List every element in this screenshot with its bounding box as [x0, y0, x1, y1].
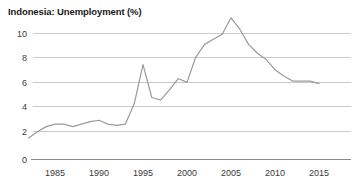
y-tick-label-4: 4 — [22, 102, 27, 112]
line-chart-svg: 10 8 6 4 2 0 1985 1990 1995 2000 2005 20… — [0, 0, 361, 196]
x-tick-label-1995: 1995 — [133, 168, 153, 178]
x-tick-label-1985: 1985 — [45, 168, 65, 178]
y-tick-label-0: 0 — [22, 155, 27, 165]
chart-card: Indonesia: Unemployment (%) 10 8 6 4 2 0… — [0, 0, 361, 196]
y-tick-label-8: 8 — [22, 53, 27, 63]
x-tick-labels: 1985 1990 1995 2000 2005 2010 2015 — [45, 168, 329, 178]
unemployment-line — [29, 18, 319, 138]
x-tick-label-2010: 2010 — [265, 168, 285, 178]
plot-area: 10 8 6 4 2 0 1985 1990 1995 2000 2005 20… — [0, 0, 361, 196]
x-tick-label-2005: 2005 — [221, 168, 241, 178]
y-tick-label-10: 10 — [17, 29, 27, 39]
y-tick-label-2: 2 — [22, 127, 27, 137]
gridlines — [33, 33, 351, 131]
y-tick-labels: 10 8 6 4 2 0 — [17, 29, 27, 166]
x-tick-label-1990: 1990 — [89, 168, 109, 178]
x-tick-label-2015: 2015 — [309, 168, 329, 178]
y-tick-label-6: 6 — [22, 78, 27, 88]
x-tick-label-2000: 2000 — [177, 168, 197, 178]
